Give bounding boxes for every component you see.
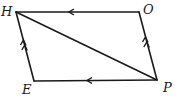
parallelogram-diagram: H O E P bbox=[0, 0, 179, 98]
double-arrow-eh-icon bbox=[21, 40, 28, 51]
vertex-label-p: P bbox=[162, 80, 172, 95]
vertex-label-e: E bbox=[21, 82, 32, 97]
double-arrow-po-icon bbox=[143, 37, 150, 48]
edge-pe bbox=[34, 80, 157, 81]
diagonal-hp bbox=[16, 12, 157, 80]
vertex-label-o: O bbox=[143, 2, 154, 17]
vertex-label-h: H bbox=[0, 4, 13, 19]
